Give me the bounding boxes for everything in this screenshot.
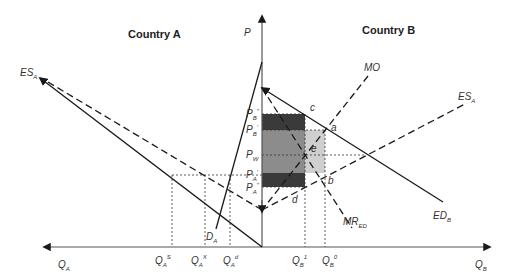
price-axis-label: P (244, 27, 251, 38)
qb-1-label: QB1 (292, 254, 307, 268)
qb-0-label: QB0 (322, 254, 338, 268)
point-d-label: d (292, 194, 298, 205)
qa-d-label: QAd (223, 254, 239, 268)
qa-s-label: QAS (155, 254, 171, 268)
pa-double-prime-label: PA″ (246, 182, 260, 195)
mo-label: MO (364, 62, 380, 73)
qa-x-label: QAX (191, 254, 208, 268)
point-c-label: c (310, 102, 315, 113)
pa-prime-label: PA′ (246, 169, 259, 182)
es-a-dashed-line-left (48, 82, 262, 210)
area-mid-grey (262, 130, 305, 173)
point-e-label: e (311, 143, 317, 154)
qa-axis-label: QA (58, 259, 70, 272)
es-a-solid-line (40, 78, 262, 247)
area-dark-top (262, 114, 305, 130)
d-a-label: DA (206, 231, 217, 244)
point-a-label: a (331, 122, 337, 133)
d-a-line (216, 62, 262, 229)
area-dark-bottom (262, 173, 305, 187)
pb-double-prime-label: PB″ (246, 108, 260, 121)
pw-label: PW (246, 149, 260, 162)
mr-ed-label: MRED (343, 216, 368, 229)
es-a-right-label: ESA (458, 91, 475, 104)
country-a-title: Country A (128, 28, 181, 40)
pb-prime-label: PB′ (246, 124, 259, 137)
trade-diagram: Country A Country B P QA QB ESA ESA MO E… (0, 0, 514, 279)
qb-axis-label: QB (475, 259, 487, 272)
country-b-title: Country B (362, 24, 415, 36)
point-b-label: b (328, 175, 334, 186)
ed-b-label: EDB (433, 210, 451, 223)
es-a-left-label: ESA (20, 67, 37, 80)
